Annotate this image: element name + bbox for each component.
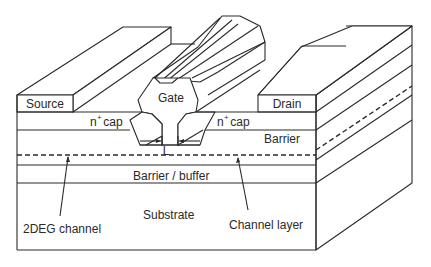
label-ncap-left-cap: cap xyxy=(100,115,123,129)
label-barrier-buffer: Barrier / buffer xyxy=(133,169,209,183)
label-barrier: Barrier xyxy=(264,132,300,146)
label-channel-layer: Channel layer xyxy=(229,218,303,232)
channel-pointer-head xyxy=(236,157,240,163)
label-drain: Drain xyxy=(273,97,302,111)
channel-pointer-line xyxy=(238,158,248,210)
hemt-diagram: Source Gate Drain n + cap n + cap Barrie… xyxy=(0,0,431,267)
label-ncap-right-cap: cap xyxy=(227,115,250,129)
label-gate-length: L xyxy=(163,144,170,158)
label-substrate: Substrate xyxy=(143,208,195,222)
label-gate: Gate xyxy=(158,91,184,105)
label-ncap-right-n: n xyxy=(217,115,224,129)
label-2deg-channel: 2DEG channel xyxy=(23,222,101,236)
label-source: Source xyxy=(26,97,64,111)
gate-top-face xyxy=(153,16,265,82)
2deg-pointer-line xyxy=(60,157,68,216)
label-ncap-left-n: n xyxy=(90,115,97,129)
2deg-pointer-head xyxy=(66,156,70,162)
